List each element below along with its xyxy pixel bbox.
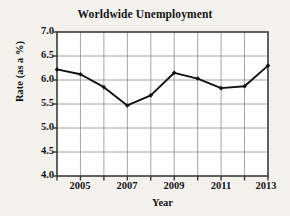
chart-container: Worldwide Unemployment Rate (as a %) 7.0… — [0, 0, 290, 216]
plot-area — [0, 0, 290, 216]
